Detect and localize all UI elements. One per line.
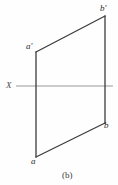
vertex-label-b: b bbox=[104, 121, 109, 130]
vertex-label-b-prime: b′ bbox=[100, 4, 106, 13]
orthographic-projection-figure: X b′ a′ b a (b) bbox=[0, 0, 118, 185]
top-view-line-a-b bbox=[36, 123, 105, 157]
front-view-line-a-prime-b-prime bbox=[36, 16, 105, 52]
figure-caption: (b) bbox=[62, 171, 73, 180]
axis-label-x: X bbox=[6, 81, 12, 90]
vertex-label-a: a bbox=[31, 157, 36, 166]
projection-drawing-canvas bbox=[0, 0, 118, 185]
vertex-label-a-prime: a′ bbox=[26, 42, 32, 51]
